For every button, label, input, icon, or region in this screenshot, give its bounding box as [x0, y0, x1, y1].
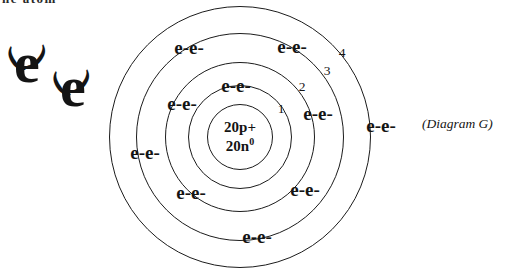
electron-pair-shell3-top-left: e-e- [174, 38, 204, 57]
diagram-caption: (Diagram G) [422, 116, 493, 132]
electron-pair-shell3-bottom: e-e- [242, 227, 272, 246]
electron-pair-shell2-lower-right: e-e- [290, 180, 320, 199]
shell-number-3: 3 [324, 64, 331, 78]
electron-pair-shell2-lower-left: e-e- [176, 183, 206, 202]
electron-glyph: e [14, 34, 40, 92]
neutron-base: 20n [226, 138, 249, 154]
electron-pair-shell4-right: e-e- [366, 116, 396, 135]
clipped-top-text: he atom [2, 0, 57, 7]
free-electron-stamp: ( ) e [52, 66, 112, 126]
electron-glyph: e [60, 58, 86, 116]
atom-diagram-page: he atom ( ) e ( ) e 20p+ 20n0 e-e- e-e- … [0, 0, 512, 273]
nucleus-circle: 20p+ 20n0 [207, 104, 273, 170]
electron-pair-shell3-top-right: e-e- [277, 37, 307, 56]
proton-count-label: 20p+ [224, 119, 256, 136]
electron-pair-shell2-right: e-e- [303, 104, 333, 123]
electron-pair-shell3-left: e-e- [130, 143, 160, 162]
neutron-superscript: 0 [249, 136, 254, 147]
shell-number-4: 4 [339, 46, 346, 60]
electron-pair-shell2-upper-left: e-e- [167, 94, 197, 113]
shell-number-1: 1 [278, 102, 285, 116]
shell-number-2: 2 [299, 80, 306, 94]
neutron-count-label: 20n0 [226, 136, 254, 155]
electron-pair-shell1-top: e-e- [221, 76, 251, 95]
